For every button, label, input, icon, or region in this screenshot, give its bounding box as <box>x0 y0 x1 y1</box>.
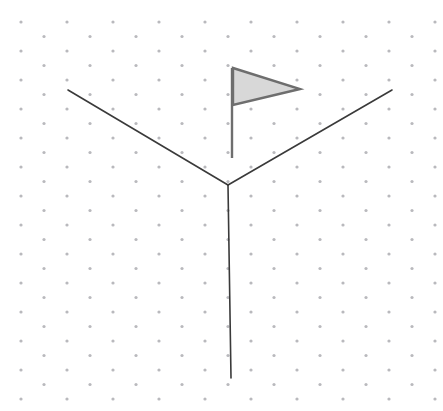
grid-dot <box>134 296 137 299</box>
grid-dot <box>341 78 344 81</box>
grid-dot <box>42 296 45 299</box>
grid-dot <box>364 180 367 183</box>
grid-dot <box>387 339 390 342</box>
grid-dot <box>433 20 436 23</box>
grid-dot <box>42 122 45 125</box>
grid-dot <box>318 325 321 328</box>
grid-dot <box>180 64 183 67</box>
drawing-canvas-root[interactable] <box>0 0 443 411</box>
grid-dot <box>387 252 390 255</box>
grid-dot <box>364 238 367 241</box>
grid-dot <box>88 180 91 183</box>
grid-dot <box>65 49 68 52</box>
grid-dot <box>65 252 68 255</box>
grid-dot <box>410 35 413 38</box>
grid-dot <box>295 136 298 139</box>
grid-dot <box>88 267 91 270</box>
grid-dot <box>19 165 22 168</box>
grid-dot <box>433 310 436 313</box>
grid-dot <box>318 151 321 154</box>
grid-dot <box>111 78 114 81</box>
grid-dot <box>272 209 275 212</box>
grid-dot <box>19 107 22 110</box>
grid-dot <box>341 397 344 400</box>
grid-dot <box>65 281 68 284</box>
grid-dot <box>203 310 206 313</box>
grid-dot <box>88 151 91 154</box>
grid-dot <box>249 281 252 284</box>
grid-dot <box>203 368 206 371</box>
grid-dot <box>203 252 206 255</box>
drawing-canvas[interactable] <box>0 0 443 411</box>
grid-dot <box>157 107 160 110</box>
grid-dot <box>410 238 413 241</box>
grid-dot <box>180 354 183 357</box>
grid-dot <box>272 325 275 328</box>
grid-dot <box>433 252 436 255</box>
grid-dot <box>111 397 114 400</box>
grid-dot <box>180 180 183 183</box>
grid-dot <box>226 383 229 386</box>
grid-dot <box>203 339 206 342</box>
grid-dot <box>295 252 298 255</box>
grid-dot <box>364 209 367 212</box>
grid-dot <box>226 325 229 328</box>
grid-dot <box>111 223 114 226</box>
grid-dot <box>272 296 275 299</box>
grid-dot <box>42 267 45 270</box>
grid-dot <box>249 107 252 110</box>
grid-dot <box>157 49 160 52</box>
grid-dot <box>111 107 114 110</box>
grid-dot <box>203 49 206 52</box>
grid-dot <box>111 281 114 284</box>
grid-dot <box>19 49 22 52</box>
grid-dot <box>410 64 413 67</box>
grid-dot <box>410 296 413 299</box>
grid-dot <box>318 383 321 386</box>
grid-dot <box>65 107 68 110</box>
grid-dot <box>387 368 390 371</box>
grid-dot <box>272 35 275 38</box>
grid-dot <box>19 194 22 197</box>
grid-dot <box>410 93 413 96</box>
grid-dot <box>410 354 413 357</box>
grid-dot <box>341 339 344 342</box>
grid-dot <box>42 64 45 67</box>
grid-dot <box>295 20 298 23</box>
grid-dot <box>203 194 206 197</box>
grid-dot <box>157 20 160 23</box>
grid-dot <box>249 194 252 197</box>
grid-dot <box>134 64 137 67</box>
grid-dot <box>272 122 275 125</box>
grid-dot <box>65 165 68 168</box>
grid-dot <box>410 325 413 328</box>
grid-dot <box>19 20 22 23</box>
grid-dot <box>19 136 22 139</box>
grid-dot <box>180 209 183 212</box>
grid-dot <box>295 194 298 197</box>
grid-dot <box>203 165 206 168</box>
grid-dot <box>65 368 68 371</box>
grid-dot <box>88 64 91 67</box>
grid-dot <box>180 267 183 270</box>
grid-dot <box>203 397 206 400</box>
grid-dot <box>272 180 275 183</box>
grid-dot <box>341 281 344 284</box>
grid-dot <box>19 339 22 342</box>
grid-dot <box>180 93 183 96</box>
grid-dot <box>249 397 252 400</box>
grid-dot <box>134 93 137 96</box>
grid-dot <box>341 194 344 197</box>
grid-dot <box>410 383 413 386</box>
grid-dot <box>134 383 137 386</box>
grid-dot <box>203 281 206 284</box>
grid-dot <box>341 165 344 168</box>
grid-dot <box>180 296 183 299</box>
grid-dot <box>249 136 252 139</box>
grid-dot <box>364 64 367 67</box>
grid-dot <box>387 194 390 197</box>
grid-dot <box>433 107 436 110</box>
grid-dot <box>364 35 367 38</box>
grid-dot <box>341 310 344 313</box>
grid-dot <box>226 93 229 96</box>
